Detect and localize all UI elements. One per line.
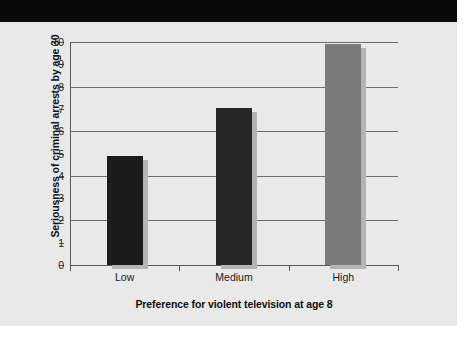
gridline [70, 42, 398, 43]
y-axis-tick-label: 8 [40, 81, 64, 93]
y-axis-tick-label: 4 [40, 170, 64, 182]
x-axis-category-label: Medium [215, 271, 252, 283]
x-axis-tick-mark [398, 266, 399, 271]
bar-low [107, 156, 143, 265]
bar-chart-figure: Seriousness of criminal arrests by age 3… [0, 22, 457, 326]
x-axis-tick-mark [289, 266, 290, 271]
y-axis-tick-group: 012345678910 [38, 42, 64, 265]
bar-medium [216, 108, 252, 265]
y-axis-tick-label: 5 [40, 148, 64, 160]
y-axis-tick-label: 1 [40, 237, 64, 249]
y-axis-tick-label: 7 [40, 103, 64, 115]
x-axis-title: Preference for violent television at age… [70, 298, 398, 310]
plot-area [70, 42, 398, 265]
x-axis-category-label: High [333, 271, 355, 283]
y-axis-tick-label: 10 [40, 36, 64, 48]
y-axis-tick-label: 6 [40, 125, 64, 137]
scanned-page-panel: Seriousness of criminal arrests by age 3… [0, 0, 457, 326]
y-axis-tick-label: 3 [40, 192, 64, 204]
bar-high [325, 44, 361, 265]
y-axis-tick-label: 9 [40, 58, 64, 70]
page-header-bar [0, 0, 457, 22]
x-axis-tick-mark [70, 266, 71, 271]
y-axis-tick-label: 2 [40, 214, 64, 226]
y-axis-tick-label: 0 [40, 259, 64, 271]
x-axis-tick-mark [179, 266, 180, 271]
x-axis-category-label: Low [115, 271, 134, 283]
